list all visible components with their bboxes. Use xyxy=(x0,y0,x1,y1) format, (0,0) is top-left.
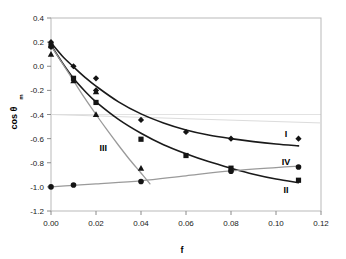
x-axis-tick-label: 0.02 xyxy=(88,219,104,228)
x-axis-tick-label: 0.06 xyxy=(178,219,194,228)
series-label-iii: III xyxy=(99,143,107,153)
series-label-ii: II xyxy=(284,185,289,195)
data-point-ii xyxy=(296,178,301,183)
y-axis-title-subscript: m xyxy=(18,94,24,99)
y-axis-tick-label: 0.2 xyxy=(33,38,45,47)
y-axis-tick-label: 0.0 xyxy=(33,62,45,71)
x-axis-tick-label: 0.08 xyxy=(223,219,239,228)
y-axis-title: cos θ xyxy=(9,106,19,129)
y-axis-tick-label: -0.6 xyxy=(30,135,44,144)
series-label-i: I xyxy=(285,129,288,139)
y-axis-tick-label: -1.2 xyxy=(30,207,44,216)
x-axis-tick-label: 0.10 xyxy=(268,219,284,228)
data-point-iv xyxy=(48,184,54,190)
data-point-iv xyxy=(296,164,302,170)
y-axis-tick-label: -1.0 xyxy=(30,183,44,192)
y-axis-tick-label: -0.8 xyxy=(30,159,44,168)
y-axis-tick-label: -0.4 xyxy=(30,111,44,120)
data-point-ii xyxy=(183,153,188,158)
data-point-ii xyxy=(93,100,98,105)
data-point-iv xyxy=(138,179,144,185)
data-point-iv xyxy=(228,168,234,174)
series-label-iv: IV xyxy=(282,157,291,167)
y-axis-tick-labels: 0.40.20.0-0.2-0.4-0.6-0.8-1.0-1.2 xyxy=(30,14,44,216)
chart-figure: 0.000.020.040.060.080.100.12 0.40.20.0-0… xyxy=(0,0,346,259)
x-axis-tick-label: 0.04 xyxy=(133,219,149,228)
y-axis-tick-label: -0.2 xyxy=(30,86,44,95)
data-point-ii xyxy=(138,137,143,142)
x-axis-tick-label: 0.12 xyxy=(313,219,329,228)
x-axis-tick-label: 0.00 xyxy=(43,219,59,228)
cos-theta-vs-f-scatter-chart: 0.000.020.040.060.080.100.12 0.40.20.0-0… xyxy=(0,0,346,259)
data-point-ii xyxy=(48,43,53,48)
y-axis-tick-label: 0.4 xyxy=(33,14,45,23)
data-point-iv xyxy=(71,182,77,188)
